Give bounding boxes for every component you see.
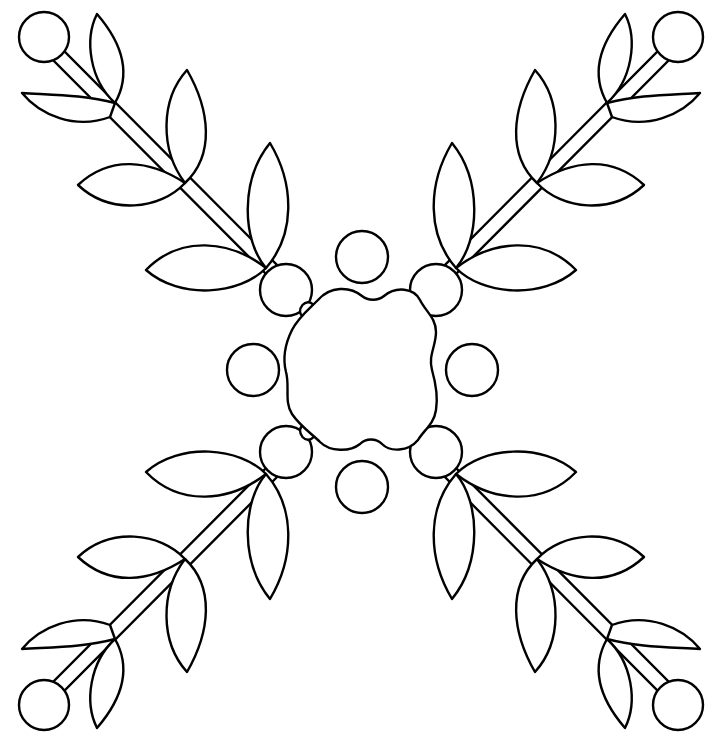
berry-right [446,344,498,396]
branch-top-left [19,12,312,316]
center-medallion [284,289,436,450]
berry-bottom [336,461,388,513]
berry-left [227,344,279,396]
branch-top-right [410,12,703,316]
berry-top [336,231,388,283]
branch-bottom-left [19,426,312,730]
line-art [0,0,722,742]
coloring-page [0,0,722,742]
branch-bottom-right [410,426,703,730]
